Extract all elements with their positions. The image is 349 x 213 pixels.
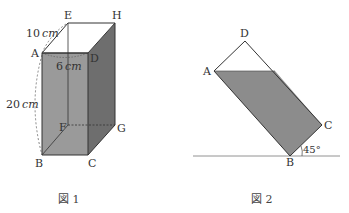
vertex-label-a2: A [202, 65, 212, 78]
figure-1: E H A D F G B C 10cm 6cm 20cm 図 1 [6, 9, 126, 206]
vertex-label-a: A [30, 47, 40, 60]
vertex-label-c: C [88, 157, 96, 170]
figure-1-caption: 図 1 [58, 193, 80, 206]
dim-height-label: 20cm [6, 98, 39, 111]
vertex-label-d: D [90, 52, 99, 65]
figure-2: D A C B 45° 図 2 [193, 27, 340, 206]
diagram-canvas: E H A D F G B C 10cm 6cm 20cm 図 1 D A C [0, 0, 349, 213]
dim-width-label: 6cm [56, 60, 82, 73]
vertex-label-g: G [117, 122, 126, 135]
dim-depth-label: 10cm [26, 27, 59, 40]
angle-label: 45° [303, 144, 321, 155]
vertex-label-b2: B [286, 156, 294, 169]
vertex-label-c2: C [324, 119, 332, 132]
vertex-label-b: B [35, 157, 43, 170]
vertex-label-h: H [112, 9, 122, 22]
vertex-label-f: F [59, 121, 67, 134]
vertex-label-e: E [64, 9, 72, 22]
figure-2-caption: 図 2 [251, 193, 273, 206]
vertex-label-d2: D [240, 27, 249, 40]
